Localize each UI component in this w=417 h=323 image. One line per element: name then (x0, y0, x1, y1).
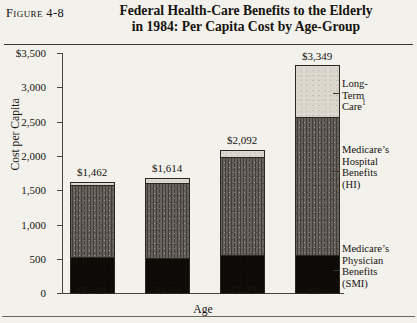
footer-divider (2, 316, 415, 317)
y-axis-label-1000: 1,000 (0, 220, 46, 231)
legend-long-term-care: Long- Term Care1 (342, 78, 417, 113)
y-axis-label-3500: $3,500 (0, 48, 46, 59)
y-tick-2000 (57, 156, 63, 157)
bar-value-80-plus: $3,349 (277, 50, 357, 62)
figure-page: Figure 4-8 Federal Health-Care Benefits … (0, 0, 417, 323)
legend-ltc-footnote-marker: 1 (362, 99, 366, 108)
bar-80-plus-segment-hospital-hi (295, 117, 340, 256)
legend-ltc-line3-text: Care (342, 101, 362, 112)
legend-ltc-line1: Long- (342, 78, 417, 90)
legend-leader-hospital-hi (333, 171, 340, 172)
y-tick-3500 (57, 53, 63, 54)
bar-65-69-segment-hospital-hi (70, 185, 115, 258)
y-tick-3000 (57, 87, 63, 88)
legend-hi-line2: Hospital (342, 156, 417, 168)
x-axis-label-80-plus: 80+ (286, 284, 348, 296)
legend-hospital-hi: Medicare’s Hospital Benefits (HI) (342, 144, 417, 190)
y-tick-1000 (57, 225, 63, 226)
legend-hi-line1: Medicare’s (342, 144, 417, 156)
y-axis-label-0: 0 (0, 288, 46, 299)
y-axis-label-2000: 2,000 (0, 151, 46, 162)
x-axis-title: Age (62, 303, 344, 316)
x-axis-label-65-69: 65–69 (61, 284, 123, 296)
y-axis-label-3000: 3,000 (0, 82, 46, 93)
legend-physician-smi: Medicare’s Physician Benefits (SMI) (342, 243, 417, 289)
legend-leader-long-term-care (333, 93, 340, 94)
y-axis-label-2500: 2,500 (0, 117, 46, 128)
y-tick-1500 (57, 190, 63, 191)
legend-hi-line4: (HI) (342, 179, 417, 191)
bar-value-75-79: $2,092 (202, 134, 282, 146)
legend-leader-physician-smi (333, 270, 340, 271)
legend-ltc-line2: Term (342, 90, 417, 102)
bar-value-70-74: $1,614 (127, 162, 207, 174)
chart-plot-area: $3,500 3,000 2,500 2,000 1,500 1,000 500… (0, 0, 417, 323)
legend-smi-line1: Medicare’s (342, 243, 417, 255)
bar-75-79-segment-hospital-hi (220, 157, 265, 256)
y-axis-label-1500: 1,500 (0, 185, 46, 196)
y-axis-label-500: 500 (0, 254, 46, 265)
legend-hi-line3: Benefits (342, 167, 417, 179)
x-axis-label-70-74: 70–74 (136, 284, 198, 296)
legend-smi-line3: Benefits (342, 266, 417, 278)
bar-value-65-69: $1,462 (52, 166, 132, 178)
y-axis-title: Cost per Capita (9, 75, 22, 195)
bar-70-74-segment-hospital-hi (145, 183, 190, 259)
legend-ltc-line3: Care1 (342, 101, 417, 113)
y-tick-2500 (57, 122, 63, 123)
legend-smi-line4: (SMI) (342, 278, 417, 290)
y-tick-500 (57, 259, 63, 260)
x-axis-label-75-79: 75–79 (211, 284, 273, 296)
bar-80-plus-segment-long-term-care (295, 65, 340, 118)
legend-smi-line2: Physician (342, 255, 417, 267)
